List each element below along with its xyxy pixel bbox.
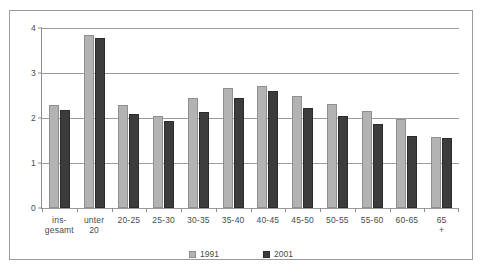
x-axis-tick-label: 40-45 — [257, 215, 280, 225]
bar-2001-20-25 — [129, 114, 139, 208]
bar-2001-35-40 — [234, 98, 244, 208]
bar-1991-45-50 — [292, 96, 302, 208]
x-axis-tick-mark — [181, 208, 182, 212]
bar-1991-50-55 — [327, 104, 337, 208]
bar-group — [257, 28, 278, 208]
x-axis-tick-label: unter 20 — [84, 215, 104, 235]
y-axis-tick-label: 1 — [31, 158, 36, 168]
bar-group — [431, 28, 452, 208]
bar-1991-unter-20 — [84, 35, 94, 208]
x-axis-tick-label: 35-40 — [222, 215, 245, 225]
x-axis-tick-mark — [77, 208, 78, 212]
x-axis-tick-label: 55-60 — [361, 215, 384, 225]
bar-group — [362, 28, 383, 208]
x-axis-tick-label: 20-25 — [118, 215, 141, 225]
bar-1991-30-35 — [188, 98, 198, 208]
bar-2001-65-+ — [442, 138, 452, 208]
x-axis-tick-mark — [251, 208, 252, 212]
bar-group — [188, 28, 209, 208]
legend-label: 2001 — [274, 249, 293, 259]
y-axis-tick-label: 2 — [31, 113, 36, 123]
bar-1991-60-65 — [396, 119, 406, 208]
bar-2001-30-35 — [199, 112, 209, 208]
bar-group — [396, 28, 417, 208]
bar-1991-ins--gesamt — [49, 105, 59, 208]
bar-2001-unter-20 — [95, 38, 105, 208]
bar-group — [49, 28, 70, 208]
x-axis-tick-mark — [216, 208, 217, 212]
legend-label: 1991 — [200, 249, 219, 259]
legend-entry-2001: 2001 — [263, 249, 293, 259]
bar-2001-45-50 — [303, 108, 313, 208]
bar-1991-25-30 — [153, 116, 163, 208]
chart-legend: 19912001 — [10, 249, 472, 259]
bar-1991-35-40 — [223, 88, 233, 208]
x-axis-tick-label: 25-30 — [152, 215, 175, 225]
bar-2001-60-65 — [407, 136, 417, 208]
bar-group — [84, 28, 105, 208]
bar-group — [327, 28, 348, 208]
chart-frame: 01234 ins- gesamtunter 2020-2525-3030-35… — [9, 10, 473, 260]
bar-1991-55-60 — [362, 111, 372, 208]
bar-group — [223, 28, 244, 208]
bar-1991-65-+ — [431, 137, 441, 208]
bar-2001-50-55 — [338, 116, 348, 208]
bar-group — [118, 28, 139, 208]
y-axis-tick-label: 3 — [31, 68, 36, 78]
x-axis-tick-mark — [112, 208, 113, 212]
x-axis-tick-label: ins- gesamt — [45, 215, 74, 235]
bar-group — [153, 28, 174, 208]
x-axis-tick-mark — [146, 208, 147, 212]
x-axis-tick-mark — [42, 208, 43, 212]
x-axis-tick-mark — [458, 208, 459, 212]
legend-entry-1991: 1991 — [189, 249, 219, 259]
x-axis-tick-mark — [285, 208, 286, 212]
bar-group — [292, 28, 313, 208]
x-axis-tick-label: 30-35 — [187, 215, 210, 225]
bar-2001-ins--gesamt — [60, 110, 70, 208]
x-axis-tick-mark — [424, 208, 425, 212]
x-axis-tick-mark — [320, 208, 321, 212]
plot-area: 01234 ins- gesamtunter 2020-2525-3030-35… — [41, 28, 459, 209]
bar-1991-20-25 — [118, 105, 128, 208]
bar-2001-55-60 — [373, 124, 383, 208]
x-axis-tick-label: 50-55 — [326, 215, 349, 225]
x-axis-tick-label: 45-50 — [291, 215, 314, 225]
x-axis-tick-mark — [355, 208, 356, 212]
y-axis-tick-label: 4 — [31, 23, 36, 33]
bar-2001-25-30 — [164, 121, 174, 208]
x-axis-tick-label: 65 + — [433, 215, 450, 235]
bar-1991-40-45 — [257, 86, 267, 208]
legend-swatch-icon — [263, 251, 270, 258]
x-axis-tick-label: 60-65 — [396, 215, 419, 225]
y-axis-tick-label: 0 — [31, 203, 36, 213]
bars-layer — [42, 28, 459, 208]
legend-swatch-icon — [189, 251, 196, 258]
bar-2001-40-45 — [268, 91, 278, 208]
x-axis-tick-mark — [390, 208, 391, 212]
